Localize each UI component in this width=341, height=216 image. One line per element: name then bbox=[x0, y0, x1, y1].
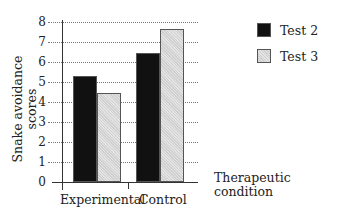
legend-swatch-test2 bbox=[257, 23, 271, 37]
bar-control-test2 bbox=[136, 53, 160, 182]
y-axis-line bbox=[62, 20, 63, 190]
gridline bbox=[48, 22, 198, 23]
y-tick-label: 8 bbox=[34, 16, 46, 28]
bar-experimental-test2 bbox=[73, 76, 97, 182]
x-axis-title: Therapeutic condition bbox=[214, 171, 341, 199]
x-label-experimental: Experimental bbox=[60, 193, 145, 207]
x-tick-mark bbox=[128, 182, 129, 189]
x-label-control: Control bbox=[139, 193, 187, 207]
y-tick-label: 0 bbox=[34, 176, 46, 188]
legend-label-test2: Test 2 bbox=[280, 24, 318, 38]
bar-control-test3 bbox=[160, 29, 184, 182]
legend-label-test3: Test 3 bbox=[280, 50, 318, 64]
y-axis-title: Snake avoidance scores bbox=[11, 44, 39, 174]
bar-experimental-test3 bbox=[97, 93, 121, 182]
x-axis-line bbox=[52, 182, 198, 183]
legend-swatch-test3 bbox=[257, 49, 271, 63]
